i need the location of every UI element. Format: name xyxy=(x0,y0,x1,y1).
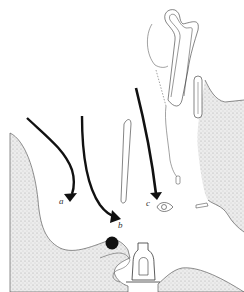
arrow-b xyxy=(82,116,116,217)
black-dot-structure xyxy=(106,237,119,250)
anatomical-figure: a b c xyxy=(0,0,244,292)
middle-tube-structure xyxy=(121,120,131,204)
central-outline xyxy=(165,106,178,178)
label-c: c xyxy=(146,198,150,208)
membrane-outline xyxy=(147,24,168,67)
right-small-tube xyxy=(196,203,208,208)
arrow-c xyxy=(136,88,156,194)
bottom-right-tissue-region xyxy=(158,268,244,292)
upper-folded-tube xyxy=(165,10,199,106)
label-b: b xyxy=(118,220,123,230)
label-a: a xyxy=(59,196,64,206)
dashed-boundary xyxy=(156,70,166,106)
right-tissue-region xyxy=(197,80,244,232)
